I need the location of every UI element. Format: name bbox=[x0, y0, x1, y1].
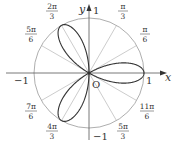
svg-text:6: 6 bbox=[29, 112, 34, 121]
angle-label-5pi-3: 5π3 bbox=[117, 122, 129, 141]
angle-label-4pi-3: 4π3 bbox=[46, 122, 58, 141]
svg-text:3: 3 bbox=[121, 12, 126, 21]
polar-rose-diagram: O x y 1 −1 1 −1 π6 π3 2π3 5π6 7π6 4π3 5π… bbox=[0, 0, 173, 143]
y-tick-pos: 1 bbox=[93, 5, 99, 16]
x-tick-pos: 1 bbox=[146, 75, 152, 86]
svg-text:π: π bbox=[121, 2, 126, 11]
y-axis-label: y bbox=[78, 3, 86, 16]
svg-text:6: 6 bbox=[143, 35, 148, 44]
svg-text:3: 3 bbox=[121, 132, 126, 141]
x-tick-neg: −1 bbox=[14, 75, 29, 86]
angle-label-pi-6: π6 bbox=[140, 25, 150, 44]
angle-label-2pi-3: 2π3 bbox=[46, 2, 58, 21]
y-tick-neg: −1 bbox=[93, 131, 108, 142]
svg-text:π: π bbox=[143, 25, 148, 34]
svg-text:11π: 11π bbox=[140, 102, 155, 111]
svg-text:6: 6 bbox=[145, 112, 150, 121]
angle-label-5pi-6: 5π6 bbox=[25, 25, 37, 44]
svg-text:5π: 5π bbox=[118, 122, 128, 131]
svg-text:5π: 5π bbox=[26, 25, 36, 34]
svg-text:3: 3 bbox=[50, 12, 55, 21]
svg-text:3: 3 bbox=[50, 132, 55, 141]
origin-label: O bbox=[92, 79, 100, 90]
origin-point bbox=[88, 72, 91, 75]
svg-text:4π: 4π bbox=[47, 122, 57, 131]
angle-label-7pi-6: 7π6 bbox=[25, 102, 37, 121]
y-axis-arrow-icon bbox=[87, 4, 92, 11]
x-axis-label: x bbox=[165, 71, 172, 84]
angle-label-11pi-6: 11π6 bbox=[140, 102, 155, 121]
svg-text:6: 6 bbox=[29, 35, 34, 44]
svg-text:2π: 2π bbox=[47, 2, 57, 11]
angle-label-pi-3: π3 bbox=[118, 2, 128, 21]
svg-text:7π: 7π bbox=[26, 102, 36, 111]
